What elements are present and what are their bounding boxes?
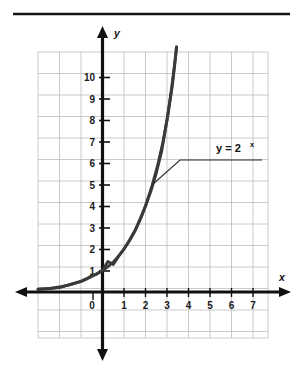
y-tick-label: 3	[89, 223, 95, 234]
x-axis-label: x	[278, 271, 286, 283]
figure-container: 1 2 3 4 5 6 7 8 9 10 0 1 2 3 4 5 6 7 y x	[0, 0, 301, 377]
y-tick-label: 2	[89, 244, 95, 255]
y-tick-label: 5	[89, 180, 95, 191]
x-tick-label: 4	[186, 300, 192, 311]
x-tick-label: 2	[143, 300, 149, 311]
x-tick-label: 3	[164, 300, 170, 311]
x-tick-label: 7	[250, 300, 256, 311]
y-tick-label: 7	[89, 137, 95, 148]
x-tick-label: 1	[121, 300, 127, 311]
y-tick-label: 10	[84, 72, 96, 83]
y-tick-label: 8	[89, 115, 95, 126]
curve-equation-base: y = 2	[216, 142, 241, 154]
y-tick-label: 4	[89, 201, 95, 212]
x-tick-label: 0	[89, 300, 95, 311]
y-tick-label: 9	[89, 94, 95, 105]
x-tick-label: 6	[229, 300, 235, 311]
y-axis-label: y	[113, 27, 121, 39]
y-tick-label: 6	[89, 158, 95, 169]
exponential-graph: 1 2 3 4 5 6 7 8 9 10 0 1 2 3 4 5 6 7 y x	[0, 0, 301, 377]
x-tick-label: 5	[207, 300, 213, 311]
